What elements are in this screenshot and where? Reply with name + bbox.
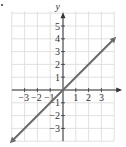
graph: −3−2−112354321−1−2−3xy <box>0 0 126 147</box>
y-tick-label: −2 <box>49 110 60 121</box>
axes <box>12 12 122 141</box>
y-tick-label: −3 <box>49 123 60 134</box>
x-tick-label: 1 <box>73 92 78 103</box>
y-tick-label: 3 <box>55 46 60 57</box>
x-axis-arrow-icon <box>116 88 122 93</box>
y-axis-label: y <box>55 1 61 12</box>
x-tick-label: −2 <box>31 92 42 103</box>
x-tick-label: 2 <box>86 92 91 103</box>
y-tick-label: 4 <box>55 33 60 44</box>
y-tick-label: 1 <box>55 72 60 83</box>
x-axis-label: x <box>125 85 126 96</box>
tick-labels: −3−2−112354321−1−2−3xy <box>18 1 126 134</box>
x-tick-label: 3 <box>99 92 104 103</box>
y-tick-label: 2 <box>55 59 60 70</box>
y-tick-label: 5 <box>55 21 60 32</box>
x-tick-label: −3 <box>18 92 29 103</box>
